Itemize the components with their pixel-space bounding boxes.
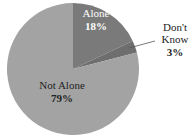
- alone-label: Alone 18%: [76, 8, 116, 32]
- dontknow-label: Don't Know 3%: [157, 22, 193, 58]
- notalone-label: Not Alone 79%: [32, 80, 92, 104]
